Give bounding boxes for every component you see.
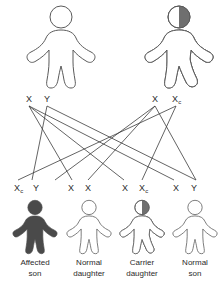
child-1-figure [10, 199, 60, 255]
child-1-allele-1: Xc [14, 183, 23, 193]
child-2-allele-2: X [85, 183, 91, 193]
caption-line-2: son [167, 269, 222, 280]
caption-line-1: Carrier [114, 258, 170, 269]
allele-subscript: c [145, 188, 148, 194]
child-1-allele-2: Y [33, 183, 39, 193]
allele-symbol: X [173, 183, 179, 193]
allele-symbol: Y [191, 183, 197, 193]
allele-symbol: X [68, 183, 74, 193]
child-1-caption: Affected son [7, 258, 63, 279]
allele-subscript: c [20, 188, 23, 194]
child-4-caption: Normal son [167, 258, 222, 279]
child-3-caption: Carrier daughter [114, 258, 170, 279]
caption-line-2: son [7, 269, 63, 280]
child-3-allele-2: Xc [139, 183, 148, 193]
caption-line-1: Normal [167, 258, 222, 269]
allele-symbol: X [85, 183, 91, 193]
pedigree-cross-diagram: X Y X Xc Xc Y X [0, 0, 222, 288]
allele-symbol: Y [33, 183, 39, 193]
caption-line-2: daughter [61, 269, 117, 280]
allele-symbol: X [122, 183, 128, 193]
caption-line-2: daughter [114, 269, 170, 280]
caption-line-1: Normal [61, 258, 117, 269]
child-3-allele-1: X [122, 183, 128, 193]
child-2-allele-1: X [68, 183, 74, 193]
child-4-figure [170, 199, 220, 255]
child-4-allele-2: Y [191, 183, 197, 193]
caption-line-1: Affected [7, 258, 63, 269]
child-4-allele-1: X [173, 183, 179, 193]
child-2-figure [64, 199, 114, 255]
child-2-caption: Normal daughter [61, 258, 117, 279]
child-3-figure [117, 199, 167, 255]
